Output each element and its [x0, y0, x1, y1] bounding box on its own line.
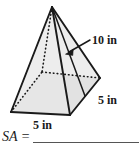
square-pyramid-diagram	[0, 0, 139, 148]
slant-height-label: 10 in	[92, 34, 117, 46]
base-edge-right-label: 5 in	[98, 94, 117, 106]
surface-area-prompt: SA =	[2, 130, 30, 145]
surface-area-answer-blank[interactable]	[33, 142, 139, 143]
surface-area-answer-row: SA =	[2, 130, 139, 145]
worksheet-problem-figure: 10 in 5 in 5 in SA =	[0, 0, 139, 148]
